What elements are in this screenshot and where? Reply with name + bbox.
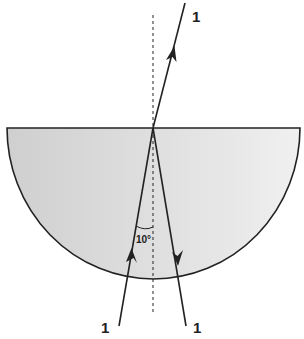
angle-label: 10° <box>136 234 151 245</box>
reflected-ray-label: 1 <box>193 319 201 336</box>
optics-diagram: 10° 1 1 1 <box>0 0 304 339</box>
refracted-ray-label: 1 <box>192 8 200 25</box>
refracted-ray <box>153 3 185 128</box>
incident-ray-label: 1 <box>101 319 109 336</box>
